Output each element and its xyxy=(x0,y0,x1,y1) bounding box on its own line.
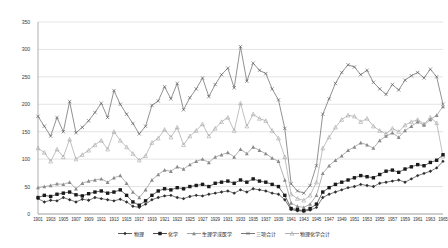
legend-marker-icon xyxy=(187,230,201,237)
legend-marker-icon xyxy=(285,230,299,237)
legend-marker-icon xyxy=(153,230,167,237)
y-axis-tick-label: 350 xyxy=(8,19,30,25)
legend-marker-icon xyxy=(118,230,132,237)
legend-label: 化学 xyxy=(168,230,178,237)
legend-marker-icon xyxy=(241,230,255,237)
y-axis-tick-label: 0 xyxy=(8,211,30,217)
legend-item-4[interactable]: 物理化学合计 xyxy=(285,230,330,237)
chart-legend: 物理化学生理学或医学三项合计物理化学合计 xyxy=(0,230,448,237)
y-axis-tick-label: 200 xyxy=(8,101,30,107)
y-axis-tick-label: 50 xyxy=(8,184,30,190)
chart-plot-area xyxy=(0,0,448,248)
legend-item-3[interactable]: 三项合计 xyxy=(241,230,276,237)
y-axis-tick-label: 150 xyxy=(8,129,30,135)
legend-item-0[interactable]: 物理 xyxy=(118,230,143,237)
nobel-nomination-line-chart: 050100150200250300350 190119031905190719… xyxy=(0,0,448,248)
legend-label: 物理化学合计 xyxy=(300,230,329,237)
legend-label: 三项合计 xyxy=(256,230,276,237)
legend-item-1[interactable]: 化学 xyxy=(153,230,178,237)
y-axis-tick-label: 100 xyxy=(8,156,30,162)
legend-item-2[interactable]: 生理学或医学 xyxy=(187,230,232,237)
y-axis-tick-label: 250 xyxy=(8,74,30,80)
legend-label: 生理学或医学 xyxy=(202,230,231,237)
legend-label: 物理 xyxy=(134,230,144,237)
y-axis-tick-label: 300 xyxy=(8,46,30,52)
